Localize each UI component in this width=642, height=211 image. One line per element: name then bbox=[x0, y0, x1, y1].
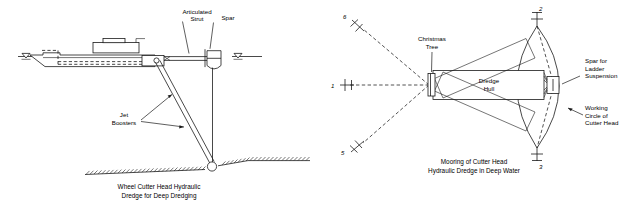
anchor-label-1: 1 bbox=[331, 83, 334, 89]
diagram-canvas: Articulated Strut Spar Jet Boosters Whee… bbox=[0, 0, 642, 211]
spar-leader bbox=[210, 23, 214, 49]
working-circle-label-line3: Cutter Head bbox=[585, 119, 619, 126]
anchor-1-left bbox=[340, 79, 354, 91]
spar-pontoon bbox=[207, 51, 221, 69]
deckhouse-upper bbox=[103, 38, 125, 42]
anchor-label-2: 2 bbox=[538, 6, 543, 12]
jet-boosters-label-line2: Boosters bbox=[112, 119, 136, 126]
spar-ladder-leader bbox=[562, 76, 580, 84]
articulated-strut-label-line2: Strut bbox=[190, 15, 203, 22]
anchor-label-6: 6 bbox=[343, 14, 347, 20]
ladder-member-lower bbox=[160, 60, 214, 161]
articulated-strut-leader bbox=[183, 22, 190, 54]
christmas-tree-label-line2: Tree bbox=[426, 43, 439, 50]
ladder-pivot-joint bbox=[154, 58, 159, 63]
jet-boosters-leader-lower bbox=[141, 122, 184, 128]
spar-label: Spar bbox=[221, 14, 234, 21]
jet-boosters-arrowhead-lower bbox=[179, 125, 184, 128]
dredge-hull-label-line1: Dredge bbox=[479, 77, 500, 84]
ladder-member-upper bbox=[156, 62, 211, 163]
dredge-hull-label-line2: Hull bbox=[484, 85, 495, 92]
spar-ladder-label-line3: Suspension bbox=[585, 72, 618, 79]
technical-figure: Articulated Strut Spar Jet Boosters Whee… bbox=[0, 0, 642, 211]
mooring-line-5 bbox=[363, 85, 429, 143]
anchor-6-upper bbox=[351, 20, 365, 32]
jet-boosters-label-line1: Jet bbox=[120, 111, 129, 118]
spar-ladder-label-line2: Ladder bbox=[585, 65, 604, 72]
left-panel-group: Articulated Strut Spar Jet Boosters Whee… bbox=[18, 8, 310, 200]
anchor-3-lower-right bbox=[531, 148, 543, 161]
working-circle-label-line2: Circle of bbox=[585, 112, 608, 119]
christmas-tree-leader bbox=[432, 52, 433, 72]
spar-ladder-label-line1: Spar for bbox=[585, 57, 607, 64]
articulated-strut-label-line1: Articulated bbox=[182, 8, 212, 15]
anchor-label-3: 3 bbox=[539, 164, 543, 170]
working-circle-label-line1: Working bbox=[585, 104, 608, 111]
right-panel-caption-line1: Mooring of Cutter Head bbox=[441, 158, 508, 166]
christmas-tree-block bbox=[428, 74, 435, 97]
jet-boosters-leader-upper bbox=[141, 95, 172, 121]
anchor-label-5: 5 bbox=[341, 150, 345, 156]
working-circle-arrowhead bbox=[568, 108, 573, 111]
right-panel-caption-line2: Hydraulic Dredge in Deep Water bbox=[428, 167, 521, 175]
right-panel-group: 6 1 5 2 bbox=[331, 6, 619, 175]
anchor-2-upper-right bbox=[531, 12, 543, 26]
left-panel-caption-line2: Dredge for Deep Dredging bbox=[122, 192, 197, 200]
anchor-5-lower bbox=[350, 141, 364, 153]
deckhouse bbox=[93, 43, 139, 53]
christmas-tree-label-line1: Christmas bbox=[418, 35, 446, 42]
seabed-line-left bbox=[85, 170, 205, 175]
ladder-pivot-housing bbox=[142, 56, 164, 66]
wheel-cutter-head bbox=[207, 162, 216, 171]
left-panel-caption-line1: Wheel Cutter Head Hydraulic bbox=[118, 183, 202, 191]
